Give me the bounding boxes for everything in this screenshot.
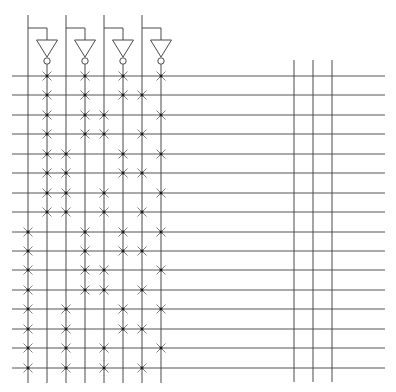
output-or-lines	[294, 60, 332, 382]
cross-dot	[65, 211, 68, 214]
cross-dot	[65, 328, 68, 331]
cross-dot	[27, 328, 30, 331]
cross-dot	[160, 75, 163, 78]
cross-dot	[103, 114, 106, 117]
cross-dot	[84, 114, 87, 117]
cross-dot	[27, 269, 30, 272]
cross-dot	[27, 231, 30, 234]
inverter-input-wire	[104, 28, 123, 40]
cross-dot	[122, 308, 125, 311]
cross-dot	[27, 289, 30, 292]
cross-dot	[65, 308, 68, 311]
cross-dot	[141, 94, 144, 97]
cross-dot	[122, 250, 125, 253]
cross-dot	[46, 211, 49, 214]
cross-dot	[122, 153, 125, 156]
cross-dot	[46, 75, 49, 78]
cross-dot	[84, 289, 87, 292]
cross-dot	[46, 94, 49, 97]
cross-dot	[141, 133, 144, 136]
inverter-triangle-icon	[113, 40, 134, 57]
cross-dot	[84, 94, 87, 97]
inverter-bubble-icon	[158, 58, 164, 64]
cross-dot	[65, 347, 68, 350]
inverter-input-wire	[142, 28, 161, 40]
decoder-diagram	[0, 0, 396, 392]
cross-dot	[160, 153, 163, 156]
inverter-triangle-icon	[75, 40, 96, 57]
cross-dot	[84, 250, 87, 253]
cross-dot	[160, 308, 163, 311]
cross-dot	[122, 94, 125, 97]
cross-dot	[65, 172, 68, 175]
inverter-bubble-icon	[120, 58, 126, 64]
inverter-bubble-icon	[44, 58, 50, 64]
inverter-triangle-icon	[151, 40, 172, 57]
diagram-svg	[0, 0, 396, 392]
cross-dot	[46, 133, 49, 136]
cross-dot	[141, 172, 144, 175]
cross-dot	[122, 172, 125, 175]
cross-dot	[65, 367, 68, 370]
cross-dot	[141, 328, 144, 331]
inverter-input-wire	[28, 28, 47, 40]
cross-dot	[27, 250, 30, 253]
cross-dot	[84, 269, 87, 272]
cross-dot	[103, 367, 106, 370]
cross-dot	[65, 153, 68, 156]
cross-dot	[160, 114, 163, 117]
inverter-input-wire	[66, 28, 85, 40]
cross-dot	[141, 289, 144, 292]
cross-dot	[27, 367, 30, 370]
cross-dot	[103, 192, 106, 195]
cross-dot	[65, 192, 68, 195]
cross-dot	[141, 250, 144, 253]
cross-dot	[160, 192, 163, 195]
cross-dot	[160, 231, 163, 234]
cross-dot	[46, 153, 49, 156]
cross-dot	[103, 133, 106, 136]
cross-dot	[27, 308, 30, 311]
cross-dot	[160, 269, 163, 272]
cross-dot	[141, 211, 144, 214]
crosspoint-connections	[24, 72, 166, 373]
cross-dot	[103, 269, 106, 272]
cross-dot	[84, 231, 87, 234]
inverter-bubble-icon	[82, 58, 88, 64]
cross-dot	[103, 289, 106, 292]
cross-dot	[84, 133, 87, 136]
cross-dot	[141, 367, 144, 370]
cross-dot	[46, 172, 49, 175]
cross-dot	[103, 347, 106, 350]
cross-dot	[160, 347, 163, 350]
cross-dot	[122, 231, 125, 234]
cross-dot	[122, 328, 125, 331]
inverter-triangle-icon	[37, 40, 58, 57]
cross-dot	[103, 211, 106, 214]
product-term-lines	[12, 76, 385, 368]
cross-dot	[84, 75, 87, 78]
cross-dot	[27, 347, 30, 350]
cross-dot	[46, 114, 49, 117]
inverter-gates	[28, 28, 172, 64]
cross-dot	[46, 192, 49, 195]
cross-dot	[122, 75, 125, 78]
